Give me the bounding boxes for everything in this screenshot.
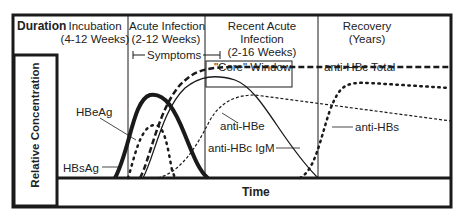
phase-acute-duration: (2-12 Weeks) <box>132 33 201 46</box>
duration-label: Duration <box>17 20 66 33</box>
symptoms-label: Symptoms <box>147 49 201 62</box>
anti-hbe-curve <box>158 95 451 178</box>
phase-recovery-duration: (Years) <box>349 33 386 46</box>
core-window-label: "Core" Window <box>214 61 291 74</box>
hbeag-curve <box>128 125 175 178</box>
anti-hbc-total-curve <box>140 67 451 178</box>
anti-hbc-total-label: anti-HBc Total <box>324 61 395 74</box>
phase-incubation-duration: (4-12 Weeks) <box>61 33 130 46</box>
hepatitis-b-serology-diagram: Duration Incubation (4-12 Weeks) Acute I… <box>0 0 469 223</box>
hbsag-label: HBsAg <box>63 162 99 175</box>
anti-hbc-igm-label: anti-HBc IgM <box>208 142 274 155</box>
phase-recovery-title: Recovery <box>343 20 392 33</box>
x-axis-label: Time <box>242 186 270 199</box>
phase-recent-title-1: Recent Acute <box>228 20 296 33</box>
phase-acute-title: Acute Infection <box>129 20 205 33</box>
anti-hbe-label: anti-HBe <box>220 120 265 133</box>
anti-hbs-label: anti-HBs <box>355 121 399 134</box>
hbsag-curve <box>115 95 208 178</box>
phase-recent-duration: (2-16 Weeks) <box>228 46 297 59</box>
phase-incubation-title: Incubation <box>68 20 121 33</box>
y-axis-label: Relative Concentration <box>29 62 42 187</box>
hbeag-label: HBeAg <box>76 106 112 119</box>
phase-recent-title-2: Infection <box>240 33 283 46</box>
